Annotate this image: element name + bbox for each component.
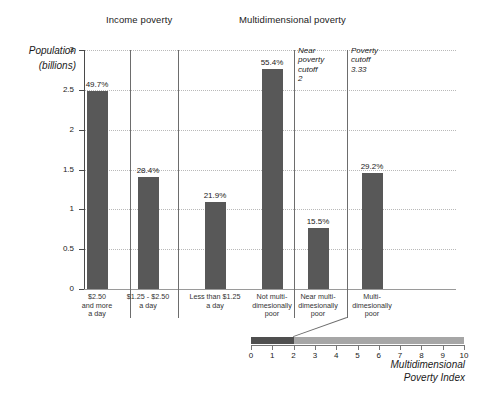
y-tick-mark (79, 50, 85, 51)
bar-value-label: 28.4% (126, 166, 170, 175)
mpi-tick-mark (294, 345, 295, 350)
y-tick-label: 1.5 (48, 165, 74, 174)
mpi-dark-segment (251, 337, 294, 344)
group-header-income-poverty: Income poverty (106, 14, 172, 25)
mpi-tick-label: 0 (244, 351, 258, 360)
bar (205, 202, 226, 289)
mpi-tick-mark (421, 345, 422, 350)
annotation-poverty-cutoff: Poverty cutoff 3.33 (351, 46, 403, 74)
category-label: Multi- dimesionally poor (342, 293, 402, 319)
y-tick-label: 0.5 (48, 244, 74, 253)
panel-divider-3 (294, 50, 295, 318)
mpi-tick-mark (272, 345, 273, 350)
mpi-tick-label: 2 (287, 351, 301, 360)
chart-canvas: Income poverty Multidimensional poverty … (0, 0, 477, 403)
y-tick-label: 2.5 (48, 85, 74, 94)
mpi-tick-mark (358, 345, 359, 350)
mpi-tick-mark (379, 345, 380, 350)
group-header-multidimensional-poverty: Multidimensional poverty (239, 14, 346, 25)
y-tick-label: 0 (48, 284, 74, 293)
mpi-tick-mark (464, 345, 465, 350)
y-tick-mark (79, 249, 85, 250)
y-axis-title-line2: (billions) (4, 60, 76, 71)
y-tick-label: 3 (48, 45, 74, 54)
mpi-axis-title: Multidimensional Poverty Index (391, 358, 465, 384)
bar-value-label: 29.2% (350, 162, 394, 171)
mpi-tick-mark (251, 345, 252, 350)
y-tick-mark (79, 209, 85, 210)
y-tick-mark (79, 90, 85, 91)
y-tick-mark (79, 130, 85, 131)
bar (362, 173, 383, 289)
bar (138, 177, 159, 289)
y-tick-mark (79, 170, 85, 171)
mpi-tick-label: 6 (372, 351, 386, 360)
connector-line (293, 317, 347, 337)
panel-divider-2 (178, 50, 179, 318)
mpi-tick-label: 1 (265, 351, 279, 360)
bar-value-label: 49.7% (75, 80, 119, 89)
bar-value-label: 15.5% (296, 217, 340, 226)
category-label: $1.25 - $2.50 a day (118, 293, 178, 310)
panel-divider-1 (130, 50, 131, 318)
mpi-tick-mark (315, 345, 316, 350)
mpi-tick-mark (443, 345, 444, 350)
mpi-tick-label: 5 (351, 351, 365, 360)
y-tick-label: 1 (48, 204, 74, 213)
category-label: Less than $1.25 a day (185, 293, 245, 310)
bar (308, 228, 329, 289)
mpi-tick-label: 4 (329, 351, 343, 360)
bar (262, 69, 283, 289)
mpi-tick-label: 3 (308, 351, 322, 360)
bar-value-label: 21.9% (193, 191, 237, 200)
annotation-near-poverty-cutoff: Near poverty cutoff 2 (298, 46, 344, 84)
x-axis-baseline (84, 289, 456, 290)
bar-value-label: 55.4% (250, 58, 294, 67)
bar (87, 91, 108, 289)
mpi-light-segment (294, 337, 464, 344)
mpi-tick-mark (400, 345, 401, 350)
y-tick-label: 2 (48, 125, 74, 134)
panel-divider-4 (347, 50, 348, 318)
category-label: Near multi- dimesionally poor (288, 293, 348, 319)
mpi-tick-mark (336, 345, 337, 350)
